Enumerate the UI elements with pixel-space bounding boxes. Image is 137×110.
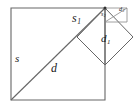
label-side-s: s: [15, 53, 19, 64]
label-diagonal-d: d: [51, 62, 57, 74]
geometry-figure: s d s1 d1 s2 d2: [0, 0, 137, 110]
geometry-canvas: [0, 0, 137, 110]
shared-vertex-dot: [104, 7, 107, 10]
label-side-s2: s2: [101, 11, 106, 18]
label-diagonal-d1: d1: [101, 33, 110, 44]
label-diagonal-d2: d2: [119, 6, 124, 13]
main-diagonal-line: [11, 8, 105, 100]
label-side-s1: s1: [72, 12, 81, 24]
